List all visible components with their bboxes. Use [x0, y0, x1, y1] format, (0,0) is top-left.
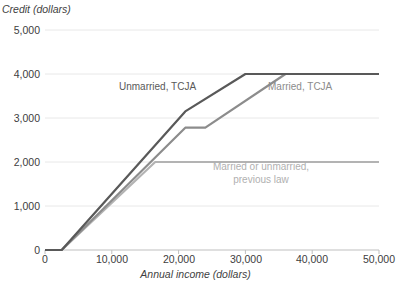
previous-law-label-line2: previous law	[233, 174, 289, 185]
x-axis-tick-label: 50,000	[349, 253, 400, 265]
y-axis-title: Credit (dollars)	[2, 3, 71, 15]
chart-svg	[45, 30, 379, 250]
y-axis-tick-label: 5,000	[0, 24, 40, 36]
y-axis-tick-label: 3,000	[0, 112, 40, 124]
x-axis-title: Annual income (dollars)	[0, 268, 391, 280]
plot-area	[45, 30, 379, 250]
previous-law-label-line1: Married or unmarried,	[213, 161, 309, 172]
y-axis-tick-label: 1,000	[0, 200, 40, 212]
series-label-previous-law: Married or unmarried, previous law	[196, 160, 326, 186]
series-label-unmarried-tcja: Unmarried, TCJA	[119, 80, 196, 93]
x-axis-tick-label: 30,000	[216, 253, 276, 265]
y-axis-tick-label: 2,000	[0, 156, 40, 168]
x-axis-tick-label: 40,000	[282, 253, 342, 265]
x-axis-tick-label: 10,000	[82, 253, 142, 265]
x-axis-tick-label: 0	[15, 253, 75, 265]
x-axis-tick-label: 20,000	[149, 253, 209, 265]
y-axis-tick-label: 4,000	[0, 68, 40, 80]
series-label-married-tcja: Married, TCJA	[268, 80, 332, 93]
